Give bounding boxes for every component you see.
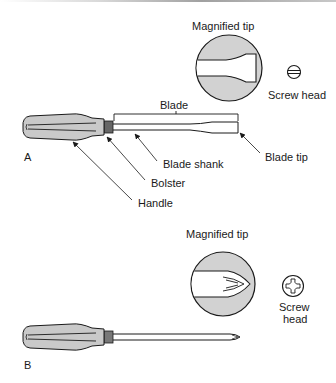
handle-arrow xyxy=(73,142,132,200)
screw-head-label-b-line2: head xyxy=(283,313,307,325)
panel-label-a: A xyxy=(24,151,32,163)
top-border xyxy=(0,0,336,2)
magnified-tip-label-b: Magnified tip xyxy=(186,228,248,240)
handle-label: Handle xyxy=(138,197,173,209)
blade-shank-arrow xyxy=(135,134,157,161)
blade-label: Blade xyxy=(160,99,188,111)
panel-b: Magnified tip Screw head xyxy=(23,228,310,371)
blade-bracket xyxy=(114,111,238,121)
screw-head-label-b-line1: Screw xyxy=(279,301,310,313)
phillips-screw-head-icon xyxy=(283,276,304,297)
panel-label-b: B xyxy=(24,359,31,371)
slotted-screwdriver-icon xyxy=(23,114,238,140)
bolster-label: Bolster xyxy=(151,177,186,189)
blade-shank-label: Blade shank xyxy=(163,158,224,170)
blade-tip-arrow xyxy=(240,133,260,153)
magnified-tip-label-a: Magnified tip xyxy=(192,20,254,32)
screwdriver-diagram: Magnified tip Screw head Blade xyxy=(0,0,336,383)
slotted-screw-head-icon xyxy=(288,66,301,79)
blade-tip-label: Blade tip xyxy=(265,151,308,163)
bolster-arrow xyxy=(107,137,145,180)
magnified-phillips-tip-icon xyxy=(185,252,255,316)
panel-a: Magnified tip Screw head Blade xyxy=(23,20,326,209)
magnified-slotted-tip-icon xyxy=(190,35,262,101)
screw-head-label-a: Screw head xyxy=(268,89,326,101)
phillips-screwdriver-icon xyxy=(23,324,240,350)
